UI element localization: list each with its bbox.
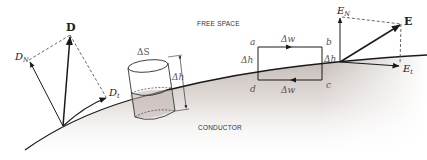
left-delta-h-label: Δh [240, 55, 253, 65]
top-delta-w-label: Δw [280, 34, 295, 44]
cylinder-delta-h-label: Δh [171, 72, 184, 82]
d-label: D [66, 21, 76, 34]
corner-b-label: b [326, 37, 332, 47]
top-path-arrow [286, 45, 292, 50]
conductor-label: CONDUCTOR [198, 124, 242, 131]
free-space-label: FREE SPACE [197, 20, 240, 27]
e-dashed-top [342, 17, 401, 24]
en-label: EN [336, 5, 350, 18]
corner-c-label: c [326, 80, 331, 90]
bottom-delta-w-label: Δw [280, 85, 295, 95]
delta-s-label: ΔS [137, 47, 150, 57]
right-delta-h-label: Δh [323, 54, 336, 64]
e-label: E [404, 15, 412, 28]
corner-a-label: a [250, 37, 255, 47]
corner-d-label: d [250, 84, 256, 94]
boundary-conditions-diagram: FREE SPACE CONDUCTOR D DN Dt ΔS Δh [0, 0, 427, 160]
